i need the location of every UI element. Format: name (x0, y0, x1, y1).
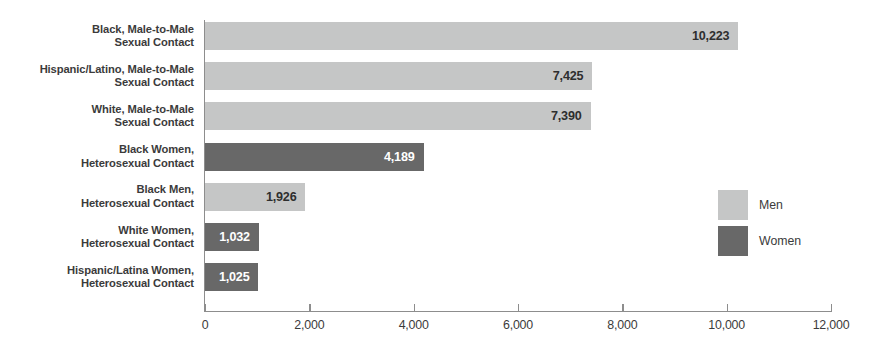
legend-label: Men (759, 198, 783, 212)
x-axis-tick-label: 0 (202, 318, 209, 332)
legend-swatch-women (718, 226, 748, 256)
bar-men[interactable]: 7,425 (205, 62, 592, 90)
x-axis-tick-label: 10,000 (708, 318, 745, 332)
x-axis-tick-label: 4,000 (399, 318, 429, 332)
bar-value-label: 10,223 (692, 29, 729, 43)
plot-area: 10,2237,4257,3904,1891,9261,0321,02502,0… (205, 0, 831, 363)
x-axis-tick (727, 304, 728, 312)
x-axis-tick (831, 304, 832, 312)
bar-men[interactable]: 7,390 (205, 102, 591, 130)
x-axis-tick (205, 304, 206, 312)
bar-row: 1,025 (205, 263, 831, 291)
bar-men[interactable]: 1,926 (205, 183, 305, 211)
bar-value-label: 7,425 (553, 69, 584, 83)
category-label: Hispanic/Latina Women, Heterosexual Cont… (0, 264, 194, 291)
x-axis-tick (518, 304, 519, 312)
x-axis-tick-label: 6,000 (503, 318, 533, 332)
legend-item-women[interactable]: Women (718, 226, 801, 256)
bar-women[interactable]: 1,025 (205, 263, 258, 291)
bar-value-label: 1,032 (219, 230, 250, 244)
bar-row: 7,425 (205, 62, 831, 90)
x-axis-tick-label: 8,000 (607, 318, 637, 332)
legend-item-men[interactable]: Men (718, 190, 783, 220)
bar-row: 7,390 (205, 102, 831, 130)
bar-value-label: 7,390 (551, 109, 582, 123)
category-label: White Women, Heterosexual Contact (0, 224, 194, 251)
legend-label: Women (759, 234, 801, 248)
bar-value-label: 1,926 (266, 190, 297, 204)
category-label: Hispanic/Latino, Male-to-Male Sexual Con… (0, 63, 194, 90)
category-label: Black Women, Heterosexual Contact (0, 143, 194, 170)
category-label: White, Male-to-Male Sexual Contact (0, 103, 194, 130)
category-label: Black, Male-to-Male Sexual Contact (0, 23, 194, 50)
legend-swatch-men (718, 190, 748, 220)
bar-chart: Black, Male-to-Male Sexual ContactHispan… (0, 0, 880, 363)
bar-value-label: 4,189 (384, 150, 415, 164)
bar-value-label: 1,025 (219, 270, 250, 284)
x-axis-tick (622, 304, 623, 312)
x-axis-tick (414, 304, 415, 312)
bar-row: 10,223 (205, 22, 831, 50)
bar-women[interactable]: 4,189 (205, 143, 424, 171)
bar-women[interactable]: 1,032 (205, 223, 259, 251)
x-axis-tick-label: 12,000 (813, 318, 850, 332)
bar-men[interactable]: 10,223 (205, 22, 738, 50)
category-axis-labels: Black, Male-to-Male Sexual ContactHispan… (0, 0, 200, 363)
category-label: Black Men, Heterosexual Contact (0, 183, 194, 210)
x-axis-tick-label: 2,000 (294, 318, 324, 332)
bar-row: 4,189 (205, 143, 831, 171)
x-axis-tick (309, 304, 310, 312)
